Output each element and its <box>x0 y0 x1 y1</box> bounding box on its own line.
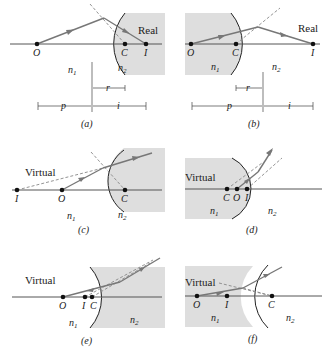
image-type-label: Real <box>298 22 318 34</box>
point-I <box>83 295 88 300</box>
normal-line <box>243 288 272 296</box>
image-type-label: Virtual <box>185 171 216 183</box>
label-I: I <box>143 47 148 58</box>
panel-d: C O I Virtual n1 n2 (d) <box>185 148 322 236</box>
panel-e: O I C Virtual n1 n2 (e) <box>12 258 165 347</box>
dim-r-label: r <box>246 82 250 93</box>
dim-r-label: r <box>106 82 110 93</box>
label-I: I <box>81 300 86 311</box>
image-type-label: Virtual <box>185 276 216 288</box>
medium-n1-label: n1 <box>69 317 78 330</box>
caption-b: (b) <box>248 118 260 130</box>
medium-n1-label: n1 <box>68 64 77 77</box>
point-O <box>35 42 40 47</box>
point-I <box>311 42 316 47</box>
image-type-label: Virtual <box>25 166 56 178</box>
point-C <box>270 294 275 299</box>
image-type-label: Real <box>138 24 158 36</box>
label-C: C <box>232 47 239 58</box>
refraction-diagram: O C I Real n1 n2 r p i (a) O C I Real n1 <box>0 0 330 351</box>
point-I <box>144 42 149 47</box>
label-O: O <box>187 47 194 58</box>
point-C <box>123 42 128 47</box>
label-O: O <box>233 192 240 203</box>
point-I <box>245 187 250 192</box>
panel-b: O C I Real n1 n2 r p i (b) <box>185 8 320 130</box>
label-I: I <box>14 193 19 204</box>
label-O: O <box>58 193 65 204</box>
dim-i-label: i <box>288 100 291 111</box>
label-C: C <box>121 193 128 204</box>
label-O: O <box>33 47 40 58</box>
image-type-label: Virtual <box>25 274 56 286</box>
ray-arrow-icon <box>266 148 273 156</box>
point-C <box>225 187 230 192</box>
panel-a: O C I Real n1 n2 r p i (a) <box>10 4 165 130</box>
caption-e: (e) <box>81 335 93 347</box>
point-O <box>61 295 66 300</box>
caption-a: (a) <box>81 118 93 130</box>
point-C <box>90 295 95 300</box>
medium-n2-label: n2 <box>286 312 295 325</box>
label-O: O <box>59 300 66 311</box>
label-I: I <box>244 192 249 203</box>
ray-arrow-icon <box>66 30 74 35</box>
caption-f: (f) <box>248 333 258 345</box>
point-O <box>195 294 200 299</box>
label-C: C <box>121 47 128 58</box>
label-C: C <box>223 192 230 203</box>
point-I <box>225 294 230 299</box>
point-C <box>234 42 239 47</box>
label-C: C <box>90 300 97 311</box>
point-O <box>60 188 65 193</box>
normal-line <box>236 8 280 44</box>
medium-n1-label: n1 <box>67 210 76 223</box>
caption-d: (d) <box>246 224 258 236</box>
label-C: C <box>268 299 275 310</box>
medium-n2-label: n2 <box>268 205 277 218</box>
dim-p-label: p <box>60 100 66 111</box>
label-O: O <box>193 299 200 310</box>
panel-c: I O C Virtual n1 n2 (c) <box>12 148 165 236</box>
label-I: I <box>224 299 229 310</box>
caption-c: (c) <box>78 224 90 236</box>
medium-n2-label: n2 <box>272 61 281 74</box>
dim-p-label: p <box>226 100 232 111</box>
label-I: I <box>310 47 315 58</box>
panel-f: O I C Virtual n1 n2 (f) <box>185 265 322 345</box>
point-C <box>123 188 128 193</box>
point-O <box>235 187 240 192</box>
dim-i-label: i <box>117 100 120 111</box>
point-I <box>15 188 20 193</box>
point-O <box>189 42 194 47</box>
